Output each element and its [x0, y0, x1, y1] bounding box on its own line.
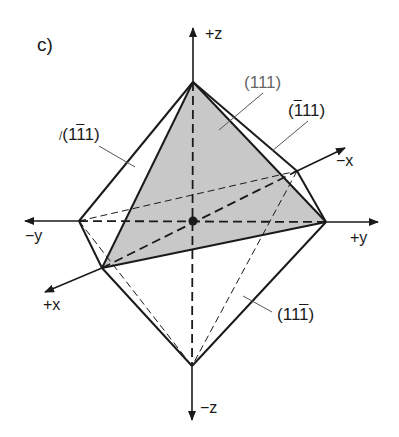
paren: ) — [276, 73, 282, 92]
index-h: 1 — [283, 305, 291, 324]
index-k: 1 — [291, 305, 299, 324]
axis-plus-x — [45, 268, 102, 292]
origin-point — [189, 217, 198, 226]
index-k: 1 — [258, 73, 266, 92]
label-plus-y: +y — [350, 229, 367, 247]
plane-label-bar1-1-1: (111) — [288, 101, 325, 121]
index-l-bar: 1 — [299, 305, 308, 324]
edge-minus-y-plus-x — [79, 221, 102, 268]
label-plus-z: +z — [205, 25, 222, 43]
plane-label-1-bar1-1: /(111) — [59, 125, 100, 145]
paren: ) — [309, 305, 315, 324]
index-k: 1 — [302, 101, 310, 120]
index-h-bar: 1 — [294, 101, 302, 120]
label-minus-x: −x — [336, 152, 353, 170]
paren: ) — [94, 125, 100, 144]
panel-label: c) — [37, 34, 53, 56]
leader-11bar1 — [243, 296, 272, 312]
paren: ) — [320, 101, 326, 120]
plane-label-1-1-bar1: (111) — [277, 305, 314, 325]
label-minus-z: −z — [200, 399, 217, 417]
index-l: 1 — [310, 101, 319, 120]
index-h: 1 — [68, 125, 76, 144]
leader-bar111 — [272, 121, 308, 151]
label-plus-x: +x — [43, 296, 60, 314]
index-h: 1 — [250, 73, 258, 92]
octahedron-diagram — [0, 0, 399, 437]
leader-1bar11 — [99, 146, 135, 167]
index-l: 1 — [266, 73, 275, 92]
edge-plus-x-bottom — [102, 268, 192, 366]
index-l: 1 — [84, 125, 93, 144]
plane-label-111: (111) — [244, 73, 281, 93]
label-minus-y: −y — [25, 227, 42, 245]
leader-111 — [219, 93, 263, 130]
